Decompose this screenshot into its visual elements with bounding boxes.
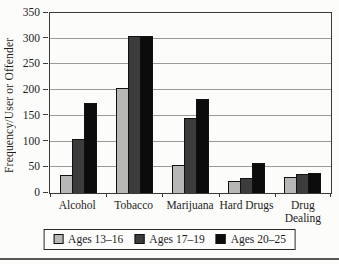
plot-area (49, 12, 332, 194)
legend: Ages 13–16 Ages 17–19 Ages 20–25 (43, 229, 296, 250)
bar-groups (50, 13, 331, 193)
bar-hard-drugs-ages-20–25 (252, 163, 265, 193)
chart-figure: Frequency/User or Offender 0501001502002… (0, 0, 339, 264)
legend-item: Ages 13–16 (53, 233, 123, 245)
y-tick-mark (43, 89, 48, 90)
y-tick-mark (43, 37, 48, 38)
x-axis-category-labels: AlcoholTobaccoMarijuanaHard DrugsDrugDea… (49, 197, 331, 224)
legend-item: Ages 20–25 (216, 233, 286, 245)
y-tick-label-150: 150 (0, 109, 40, 121)
y-tick-label-350: 350 (0, 6, 40, 18)
y-tick-label-0: 0 (0, 186, 40, 198)
legend-label: Ages 17–19 (149, 233, 204, 245)
y-axis-ticks: 050100150200250300350 (0, 12, 49, 192)
bar-marijuana-ages-20–25 (196, 99, 209, 193)
category-label-marijuana: Marijuana (162, 197, 218, 224)
x-tick-mark (275, 193, 276, 197)
x-tick-mark (106, 193, 107, 197)
y-tick-mark (43, 12, 48, 13)
bar-alcohol-ages-20–25 (84, 103, 97, 193)
legend-swatch-ages-17-19 (134, 234, 144, 244)
bar-drug-dealing-ages-20–25 (308, 173, 321, 193)
x-tick-mark (162, 193, 163, 197)
legend-swatch-ages-20-25 (216, 234, 226, 244)
y-tick-label-200: 200 (0, 83, 40, 95)
page-bottom-rule (0, 258, 339, 260)
category-label-alcohol: Alcohol (49, 197, 105, 224)
legend-item: Ages 17–19 (134, 233, 204, 245)
y-tick-label-50: 50 (0, 160, 40, 172)
y-tick-mark (43, 166, 48, 167)
legend-swatch-ages-13-16 (53, 234, 63, 244)
bar-group-tobacco (106, 13, 162, 193)
x-tick-mark (219, 193, 220, 197)
y-tick-mark (43, 192, 48, 193)
y-tick-label-250: 250 (0, 57, 40, 69)
x-tick-mark (330, 193, 331, 197)
bar-tobacco-ages-20–25 (140, 36, 153, 193)
x-tick-mark (50, 193, 51, 197)
legend-label: Ages 13–16 (68, 233, 123, 245)
bar-group-drug-dealing (275, 13, 331, 193)
category-label-drug-dealing: DrugDealing (275, 197, 331, 224)
category-label-hard-drugs: Hard Drugs (218, 197, 274, 224)
legend-label: Ages 20–25 (231, 233, 286, 245)
bar-group-alcohol (50, 13, 106, 193)
y-tick-label-100: 100 (0, 135, 40, 147)
bar-group-hard-drugs (219, 13, 275, 193)
category-label-tobacco: Tobacco (105, 197, 161, 224)
y-tick-label-300: 300 (0, 32, 40, 44)
y-tick-mark (43, 114, 48, 115)
y-tick-mark (43, 63, 48, 64)
y-tick-mark (43, 140, 48, 141)
bar-group-marijuana (162, 13, 218, 193)
